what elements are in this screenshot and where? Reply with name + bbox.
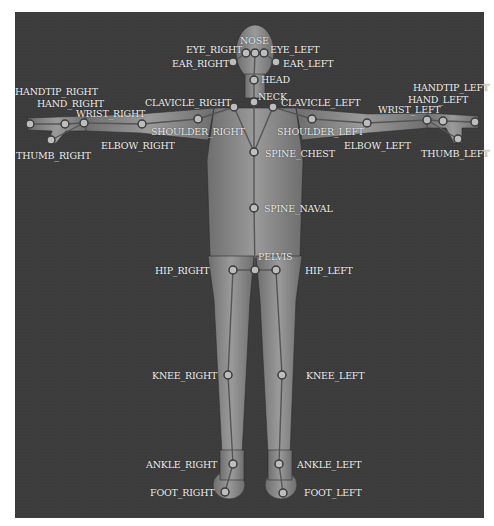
- joint-pelvis: [251, 266, 259, 274]
- joint-foot-left: [279, 489, 287, 497]
- joint-shoulder-right: [194, 115, 202, 123]
- joint-hip-left: [272, 266, 280, 274]
- label-hip-left: HIP_LEFT: [305, 266, 353, 276]
- label-foot-right: FOOT_RIGHT: [150, 488, 214, 498]
- joint-handtip-left: [471, 118, 479, 126]
- joint-elbow-right: [138, 120, 146, 128]
- label-ear-left: EAR_LEFT: [283, 59, 333, 69]
- label-eye-right: EYE_RIGHT: [186, 45, 242, 55]
- label-ankle-right: ANKLE_RIGHT: [146, 460, 217, 470]
- bone-pelvis-spine_naval: [254, 208, 255, 270]
- bone-elbow_right-wrist_right: [84, 123, 142, 124]
- joint-hand-left: [439, 117, 447, 125]
- joint-wrist-right: [80, 119, 88, 127]
- joint-clavicle-left: [269, 103, 277, 111]
- joint-eye-right: [242, 49, 250, 57]
- joint-hip-right: [229, 266, 237, 274]
- label-spine-naval: SPINE_NAVAL: [264, 204, 333, 214]
- joint-shoulder-left: [308, 115, 316, 123]
- label-wrist-left: WRIST_LEFT: [378, 105, 440, 115]
- joint-clavicle-right: [230, 103, 238, 111]
- joint-wrist-left: [423, 116, 431, 124]
- joint-eye-left: [260, 49, 268, 57]
- joint-neck: [250, 98, 258, 106]
- joint-elbow-left: [363, 119, 371, 127]
- label-shoulder-left: SHOULDER_LEFT: [277, 127, 364, 137]
- label-spine-chest: SPINE_CHEST: [265, 149, 335, 159]
- joint-knee-right: [224, 371, 232, 379]
- joint-spine-naval: [250, 204, 258, 212]
- label-ankle-left: ANKLE_LEFT: [297, 460, 361, 470]
- label-shoulder-right: SHOULDER_RIGHT: [151, 127, 245, 137]
- joint-thumb-right: [47, 136, 55, 144]
- label-handtip-right: HANDTIP_RIGHT: [15, 87, 98, 97]
- label-wrist-right: WRIST_RIGHT: [76, 109, 145, 119]
- label-handtip-left: HANDTIP_LEFT: [413, 83, 489, 93]
- label-eye-left: EYE_LEFT: [270, 45, 319, 55]
- body-figure: [0, 0, 494, 526]
- label-knee-left: KNEE_LEFT: [306, 371, 364, 381]
- label-thumb-right: THUMB_RIGHT: [16, 151, 91, 161]
- bone-hand_left-handtip_left: [443, 121, 475, 122]
- joint-knee-left: [278, 371, 286, 379]
- joint-foot-right: [221, 488, 229, 496]
- label-elbow-right: ELBOW_RIGHT: [101, 141, 175, 151]
- joint-nose: [251, 49, 259, 57]
- joint-thumb-left: [454, 135, 462, 143]
- label-hand-left: HAND_LEFT: [408, 95, 468, 105]
- label-ear-right: EAR_RIGHT: [172, 59, 229, 69]
- label-hip-right: HIP_RIGHT: [155, 266, 210, 276]
- joint-handtip-right: [26, 120, 34, 128]
- joint-head: [250, 76, 258, 84]
- label-foot-left: FOOT_LEFT: [304, 488, 362, 498]
- joint-hand-right: [61, 120, 69, 128]
- label-head: HEAD: [261, 75, 290, 85]
- label-thumb-left: THUMB_LEFT: [421, 149, 489, 159]
- joint-ear-right: [229, 58, 237, 66]
- joint-spine-chest: [250, 148, 258, 156]
- joint-ear-left: [272, 58, 280, 66]
- label-pelvis: PELVIS: [258, 252, 292, 262]
- label-nose: NOSE: [240, 36, 269, 46]
- label-knee-right: KNEE_RIGHT: [152, 371, 217, 381]
- label-clavicle-left: CLAVICLE_LEFT: [281, 98, 360, 108]
- label-clavicle-right: CLAVICLE_RIGHT: [145, 98, 231, 108]
- joint-ankle-left: [275, 460, 283, 468]
- label-elbow-left: ELBOW_LEFT: [344, 141, 411, 151]
- joint-ankle-right: [229, 460, 237, 468]
- label-hand-right: HAND_RIGHT: [37, 99, 104, 109]
